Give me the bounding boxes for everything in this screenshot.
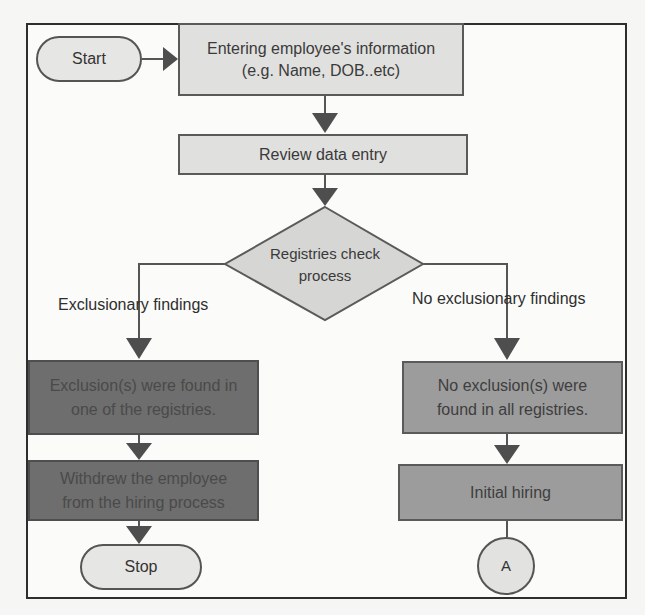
connector-a-circle: A <box>477 537 535 595</box>
arrowhead-icon <box>312 113 338 133</box>
entering-info-box: Entering employee's information (e.g. Na… <box>178 23 464 96</box>
decision-line2: process <box>245 265 405 287</box>
entering-info-line2: (e.g. Name, DOB..etc) <box>242 60 400 82</box>
start-terminal: Start <box>36 36 142 82</box>
withdrew-employee-box: Withdrew the employee from the hiring pr… <box>28 460 259 521</box>
withdrew-line1: Withdrew the employee <box>60 467 227 491</box>
arrowhead-icon <box>163 47 178 71</box>
branch-label-exclusionary: Exclusionary findings <box>58 296 208 314</box>
review-data-box: Review data entry <box>178 134 468 175</box>
no-exclusion-box: No exclusion(s) were found in all regist… <box>402 361 623 434</box>
decision-line1: Registries check <box>245 243 405 265</box>
arrowhead-icon <box>126 526 152 544</box>
arrowhead-icon <box>312 188 338 206</box>
review-data-label: Review data entry <box>259 145 387 165</box>
initial-hiring-label: Initial hiring <box>470 483 551 503</box>
branch-label-no-exclusionary: No exclusionary findings <box>412 290 585 308</box>
exclusion-found-box: Exclusion(s) were found in one of the re… <box>28 360 259 435</box>
arrowhead-icon <box>494 338 520 360</box>
entering-info-line1: Entering employee's information <box>207 38 435 60</box>
initial-hiring-box: Initial hiring <box>398 464 623 521</box>
arrowhead-icon <box>126 338 152 359</box>
exclusion-found-line2: one of the registries. <box>71 398 216 422</box>
arrowhead-icon <box>494 445 520 464</box>
no-exclusion-line1: No exclusion(s) were <box>438 374 587 398</box>
start-label: Start <box>72 49 106 69</box>
connector-a-label: A <box>501 556 511 576</box>
stop-terminal: Stop <box>80 544 202 590</box>
exclusion-found-line1: Exclusion(s) were found in <box>50 374 238 398</box>
arrowhead-icon <box>126 443 152 460</box>
no-exclusion-line2: found in all registries. <box>437 398 588 422</box>
decision-text: Registries check process <box>245 243 405 287</box>
stop-label: Stop <box>125 557 158 577</box>
withdrew-line2: from the hiring process <box>62 491 225 515</box>
